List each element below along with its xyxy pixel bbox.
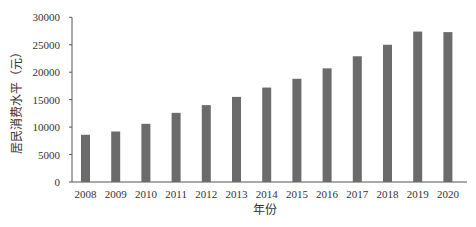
bar-2008 xyxy=(81,135,90,182)
bar-2013 xyxy=(232,97,241,182)
x-tick-label: 2011 xyxy=(165,188,187,200)
bar-2019 xyxy=(413,32,422,182)
x-tick-label: 2013 xyxy=(226,188,249,200)
bar-2020 xyxy=(443,32,452,182)
x-tick-label: 2010 xyxy=(135,188,158,200)
x-axis: 2008200920102011201220132014201520162017… xyxy=(72,182,467,200)
bar-2015 xyxy=(292,79,301,182)
bars xyxy=(81,32,452,182)
y-tick-label: 25000 xyxy=(33,39,61,51)
y-tick-label: 15000 xyxy=(33,94,61,106)
x-tick-label: 2017 xyxy=(346,188,369,200)
x-tick-label: 2014 xyxy=(256,188,279,200)
x-tick-label: 2018 xyxy=(377,188,400,200)
y-tick-label: 5000 xyxy=(38,149,61,161)
x-tick-label: 2015 xyxy=(286,188,309,200)
bar-2009 xyxy=(111,131,120,182)
x-tick-label: 2020 xyxy=(437,188,460,200)
bar-chart: 050001000015000200002500030000 200820092… xyxy=(0,0,476,227)
bar-2011 xyxy=(172,113,181,182)
x-tick-label: 2019 xyxy=(407,188,430,200)
bar-2012 xyxy=(202,105,211,182)
x-tick-label: 2008 xyxy=(75,188,98,200)
bar-2010 xyxy=(141,124,150,182)
y-axis-title: 居民消费水平（元） xyxy=(10,46,24,154)
bar-2014 xyxy=(262,88,271,182)
x-tick-label: 2009 xyxy=(105,188,128,200)
bar-2016 xyxy=(323,68,332,182)
x-tick-label: 2012 xyxy=(195,188,217,200)
y-tick-label: 30000 xyxy=(33,11,61,23)
y-tick-label: 0 xyxy=(55,176,61,188)
bar-2018 xyxy=(383,45,392,182)
y-tick-label: 10000 xyxy=(33,121,61,133)
y-tick-label: 20000 xyxy=(33,66,61,78)
bar-2017 xyxy=(353,56,362,182)
x-tick-label: 2016 xyxy=(316,188,339,200)
y-axis: 050001000015000200002500030000 xyxy=(33,11,73,188)
x-axis-title: 年份 xyxy=(253,203,277,217)
